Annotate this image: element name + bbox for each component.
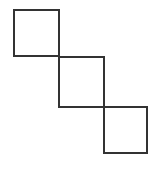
- square-3: [104, 107, 147, 153]
- diagram-canvas: [0, 0, 161, 181]
- square-2: [59, 57, 104, 107]
- diagonal-squares-diagram: [0, 0, 161, 181]
- square-1: [14, 10, 59, 56]
